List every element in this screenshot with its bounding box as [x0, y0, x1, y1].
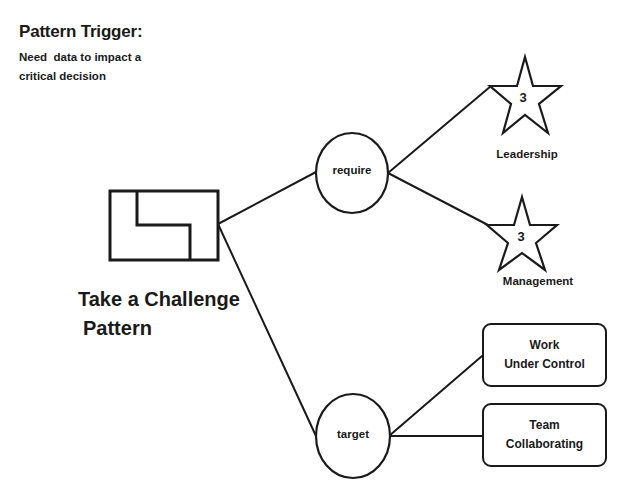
pattern-name: Take a Challenge Pattern	[78, 285, 240, 343]
trigger-description-line2: critical decision	[19, 67, 219, 86]
management-level: 3	[511, 229, 531, 244]
pattern-shape-icon	[110, 191, 218, 260]
target-box-line1: Team	[529, 416, 559, 435]
target-box-line1: Work	[530, 336, 560, 355]
trigger-description: Need data to impact a critical decision	[19, 48, 219, 86]
management-label: Management	[478, 275, 598, 287]
leadership-label: Leadership	[467, 148, 587, 160]
target-box-line2: Collaborating	[506, 435, 583, 454]
edge-pattern-require	[218, 172, 316, 224]
target-box-line2: Under Control	[504, 355, 585, 374]
pattern-name-line2: Pattern	[78, 314, 240, 343]
pattern-name-line1: Take a Challenge	[78, 288, 240, 310]
target-node: target	[316, 428, 390, 440]
trigger-description-line1: Need data to impact a	[19, 48, 219, 67]
leadership-level: 3	[513, 90, 533, 105]
edge-target-work	[389, 356, 482, 436]
target-box-team-collaborating: Team Collaborating	[482, 403, 607, 467]
trigger-title: Pattern Trigger:	[19, 22, 142, 42]
edge-require-management	[388, 173, 488, 225]
require-node: require	[316, 164, 388, 176]
target-box-work-under-control: Work Under Control	[482, 323, 607, 387]
